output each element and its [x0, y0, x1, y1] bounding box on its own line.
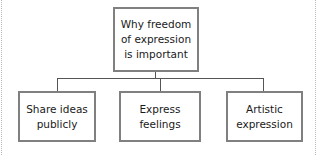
- root-line: Why freedom: [121, 17, 192, 32]
- child-line: expression: [236, 117, 293, 132]
- root-line: of expression: [121, 32, 192, 47]
- connector-right-down: [263, 78, 264, 91]
- child-node-express-feelings: Express feelings: [119, 91, 201, 142]
- child-line: Artistic: [236, 102, 293, 117]
- child-line: publicly: [26, 117, 88, 132]
- connector-middle-down: [160, 78, 161, 91]
- root-line: is important: [121, 47, 192, 62]
- child-node-artistic-expression: Artistic expression: [226, 91, 303, 142]
- right-dotted-border: [315, 0, 316, 155]
- connector-left-down: [57, 78, 58, 91]
- child-line: Share ideas: [26, 102, 88, 117]
- left-dotted-border: [1, 0, 2, 155]
- root-node: Why freedom of expression is important: [113, 7, 199, 72]
- child-line: Express: [139, 102, 180, 117]
- child-line: feelings: [139, 117, 180, 132]
- child-node-share-ideas: Share ideas publicly: [18, 91, 96, 142]
